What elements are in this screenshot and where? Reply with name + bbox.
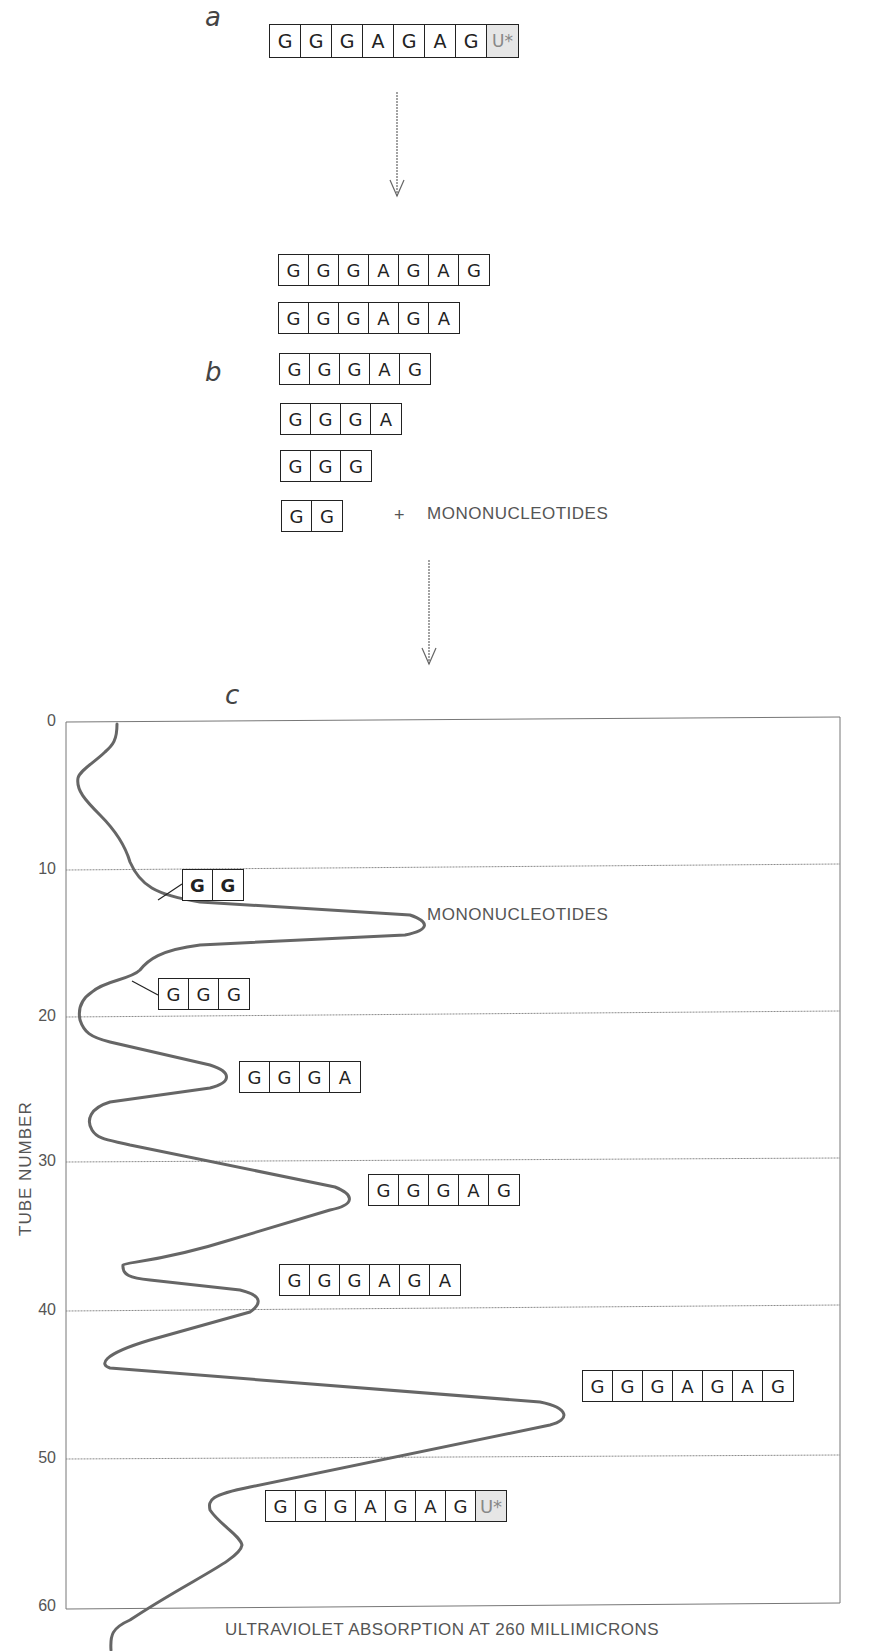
nucleotide: A: [733, 1371, 763, 1401]
nucleotide: G: [300, 1062, 330, 1092]
nucleotide: G: [613, 1371, 643, 1401]
nucleotide: G: [280, 1265, 310, 1295]
peak-label-gggag: G G G A G: [368, 1174, 520, 1206]
peak-label-ggga: G G G A: [239, 1061, 361, 1093]
y-axis-title: TUBE NUMBER: [16, 1101, 36, 1236]
nucleotide: G: [159, 979, 189, 1009]
nucleotide: G: [703, 1371, 733, 1401]
nucleotide: G: [446, 1491, 476, 1521]
x-axis-title: ULTRAVIOLET ABSORPTION AT 260 MILLIMICRO…: [225, 1620, 659, 1640]
peak-label-gggagagu: G G G A G A G U*: [265, 1490, 507, 1522]
peak-label-gggaga: G G G A G A: [279, 1264, 461, 1296]
nucleotide: G: [296, 1491, 326, 1521]
nucleotide: G: [386, 1491, 416, 1521]
nucleotide: G: [400, 1265, 430, 1295]
nucleotide: A: [370, 1265, 400, 1295]
nucleotide: G: [340, 1265, 370, 1295]
y-tick-label: 0: [16, 712, 56, 730]
nucleotide: G: [266, 1491, 296, 1521]
peak-label-gggagag: G G G A G A G: [582, 1370, 794, 1402]
nucleotide: A: [356, 1491, 386, 1521]
nucleotide: A: [459, 1175, 489, 1205]
nucleotide: A: [330, 1062, 360, 1092]
nucleotide: G: [399, 1175, 429, 1205]
y-tick-label: 20: [16, 1007, 56, 1025]
nucleotide: G: [219, 979, 249, 1009]
nucleotide: G: [643, 1371, 673, 1401]
nucleotide: G: [326, 1491, 356, 1521]
peak-label-gg: G G: [182, 869, 244, 901]
peak-label-ggg: G G G: [158, 978, 250, 1010]
peak-label-mononucleotides: MONONUCLEOTIDES: [427, 905, 608, 925]
nucleotide: G: [310, 1265, 340, 1295]
nucleotide: G: [369, 1175, 399, 1205]
nucleotide: G: [240, 1062, 270, 1092]
y-tick-label: 50: [16, 1449, 56, 1467]
nucleotide: A: [416, 1491, 446, 1521]
nucleotide: G: [583, 1371, 613, 1401]
y-tick-label: 60: [16, 1597, 56, 1615]
nucleotide: G: [489, 1175, 519, 1205]
nucleotide: G: [429, 1175, 459, 1205]
nucleotide: G: [763, 1371, 793, 1401]
y-tick-label: 10: [16, 860, 56, 878]
nucleotide: G: [270, 1062, 300, 1092]
nucleotide-uridine: U*: [476, 1491, 506, 1521]
y-tick-label: 40: [16, 1301, 56, 1319]
nucleotide: G: [189, 979, 219, 1009]
nucleotide: G: [183, 870, 213, 900]
leader-line: [132, 981, 158, 995]
nucleotide: A: [430, 1265, 460, 1295]
nucleotide: A: [673, 1371, 703, 1401]
nucleotide: G: [213, 870, 243, 900]
elution-chart: [0, 0, 869, 1651]
chart-frame: [66, 717, 840, 1609]
